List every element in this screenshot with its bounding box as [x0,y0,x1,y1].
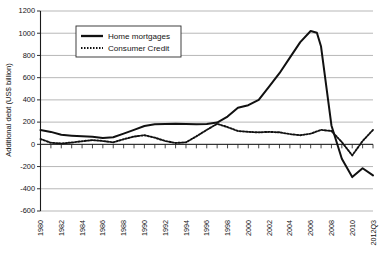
x-tick-label-2006: 2006 [306,220,315,236]
y-tick-label-200: 200 [23,117,35,126]
y-tick-label-1200: 1200 [19,6,35,15]
x-tick-label-1990: 1990 [140,220,149,236]
x-tick-label-1982: 1982 [57,220,66,236]
x-tick-label-1998: 1998 [223,220,232,236]
chart-container: -600-400-200020040060080010001200 198019… [0,0,386,261]
x-tick-label-2008: 2008 [327,220,336,236]
y-axis-title: Additional debt (US$ billion) [4,63,13,157]
legend-label-consumer-credit: Consumer Credit [108,44,170,53]
x-tick-label-2004: 2004 [285,220,294,236]
x-tick-label-2012Q3: 2012Q3 [369,220,378,246]
x-tick-label-1996: 1996 [202,220,211,236]
legend-label-home-mortgages: Home mortgages [108,32,170,41]
additional-debt-line-chart: -600-400-200020040060080010001200 198019… [0,0,386,261]
x-tick-label-1992: 1992 [161,220,170,236]
x-tick-label-2010: 2010 [348,220,357,236]
y-tick-label-1000: 1000 [19,29,35,38]
x-tick-label-1986: 1986 [98,220,107,236]
y-tick-label--600: -600 [20,206,35,215]
y-tick-label--200: -200 [20,162,35,171]
y-tick-label-800: 800 [23,51,35,60]
chart-legend: Home mortgages Consumer Credit [76,26,181,57]
y-tick-label--400: -400 [20,184,35,193]
x-tick-label-1980: 1980 [36,220,45,236]
y-tick-label-0: 0 [31,140,35,149]
x-tick-label-1994: 1994 [182,220,191,236]
x-tick-label-1984: 1984 [78,220,87,236]
y-tick-label-600: 600 [23,73,35,82]
x-tick-label-2002: 2002 [265,220,274,236]
x-tick-label-1988: 1988 [119,220,128,236]
y-tick-label-400: 400 [23,95,35,104]
x-tick-label-2000: 2000 [244,220,253,236]
